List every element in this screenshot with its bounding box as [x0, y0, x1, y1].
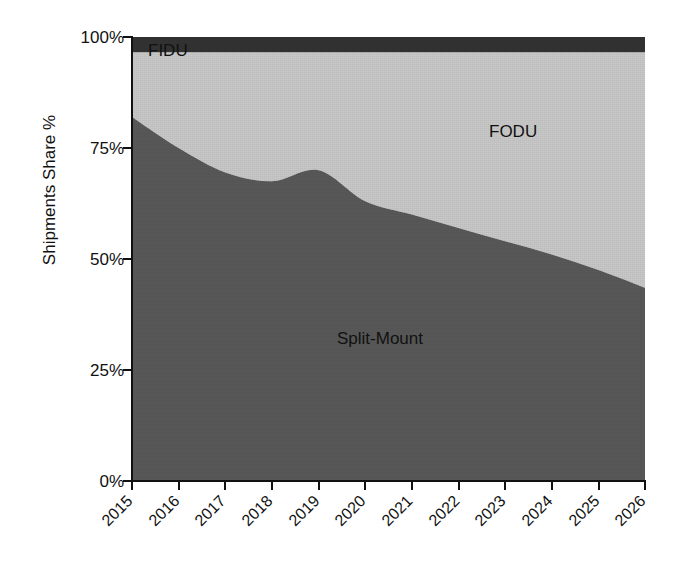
plot-area	[132, 37, 645, 481]
x-tick-label-2021: 2021	[378, 492, 416, 530]
y-tick-mark-50	[123, 258, 131, 260]
x-tick-mark-2020	[364, 482, 366, 490]
y-tick-label-75: 75%	[44, 140, 124, 157]
stacked-area-paths	[132, 37, 645, 481]
x-tick-mark-2016	[178, 482, 180, 490]
y-tick-label-25: 25%	[44, 362, 124, 379]
y-tick-label-0: 0%	[44, 473, 124, 490]
x-tick-label-2024: 2024	[518, 492, 556, 530]
series-label-fidu: FIDU	[148, 41, 188, 61]
series-label-fodu: FODU	[489, 122, 537, 142]
x-tick-mark-2024	[551, 482, 553, 490]
x-tick-mark-2021	[411, 482, 413, 490]
x-tick-mark-2026	[644, 482, 646, 490]
x-tick-label-2020: 2020	[331, 492, 369, 530]
x-tick-mark-2018	[271, 482, 273, 490]
y-axis-tick-labels: 100% 75% 50% 25% 0%	[40, 0, 124, 574]
x-tick-mark-2025	[598, 482, 600, 490]
stacked-area-chart: Shipments Share % 100% 75% 50% 25% 0% 20…	[0, 0, 681, 574]
y-tick-label-100: 100%	[44, 29, 124, 46]
x-tick-label-2018: 2018	[238, 492, 276, 530]
y-tick-mark-75	[123, 147, 131, 149]
y-axis-line	[131, 36, 133, 482]
area-path-fidu	[132, 37, 645, 53]
x-tick-label-2017: 2017	[191, 492, 229, 530]
x-tick-label-2026: 2026	[611, 492, 649, 530]
x-tick-label-2019: 2019	[285, 492, 323, 530]
y-tick-mark-100	[123, 36, 131, 38]
series-label-split-mount: Split-Mount	[337, 329, 423, 349]
y-tick-mark-0	[123, 480, 131, 482]
x-tick-mark-2019	[318, 482, 320, 490]
x-axis-line	[131, 480, 646, 482]
x-tick-label-2025: 2025	[565, 492, 603, 530]
y-tick-label-50: 50%	[44, 251, 124, 268]
x-tick-mark-2022	[458, 482, 460, 490]
x-tick-mark-2023	[504, 482, 506, 490]
x-tick-mark-2015	[131, 482, 133, 490]
x-tick-label-2022: 2022	[425, 492, 463, 530]
x-tick-label-2023: 2023	[471, 492, 509, 530]
x-tick-label-2016: 2016	[145, 492, 183, 530]
x-tick-mark-2017	[224, 482, 226, 490]
y-tick-mark-25	[123, 369, 131, 371]
